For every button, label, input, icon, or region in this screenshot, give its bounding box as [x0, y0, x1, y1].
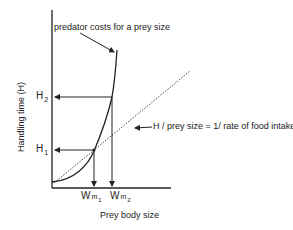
line-annotation-pointer [135, 127, 152, 128]
diagram-canvas [0, 0, 293, 230]
y-tick-h2: H2 [36, 90, 48, 103]
curve-annotation: predator costs for a prey size [54, 22, 170, 32]
x-tick-wm1: Wm1 [81, 190, 102, 203]
line-annotation: H / prey size = 1/ rate of food intake [153, 121, 293, 131]
y-axis-label: Handling time (H) [16, 82, 26, 152]
x-axis-label: Prey body size [100, 210, 159, 220]
y-tick-h1: H1 [36, 143, 48, 156]
cost-curve [52, 50, 117, 182]
x-tick-wm2: Wm2 [110, 190, 131, 203]
annotation-pointer [80, 33, 114, 52]
